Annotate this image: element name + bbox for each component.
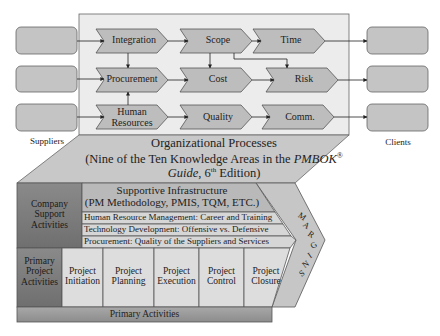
phase-closure-line1: Project	[244, 266, 288, 276]
company-support-line3: Activities	[17, 220, 82, 230]
client-box-2	[367, 66, 428, 92]
subtitle-prefix: (Nine of the Ten Knowledge Areas in the	[85, 152, 294, 166]
primary-project-label: Primary Project Activities	[17, 256, 62, 287]
company-support-label: Company Support Activities	[17, 199, 82, 230]
infrastructure-line2: (PM Methodology, PMIS, TQM, ETC.)	[82, 196, 262, 208]
knowledge-area-procurement: Procurement	[100, 73, 164, 84]
primary-activities-label: Primary Activities	[17, 309, 272, 319]
knowledge-area-integration: Integration	[104, 34, 164, 45]
phase-closure-label: Project Closure	[244, 266, 288, 287]
hr-line1: Human	[100, 106, 164, 117]
subtitle-mid: , 6	[198, 166, 211, 180]
clients-label: Clients	[367, 138, 429, 148]
suppliers-label: Suppliers	[16, 137, 78, 147]
knowledge-area-quality: Quality	[188, 111, 248, 122]
primary-project-line3: Activities	[17, 277, 62, 287]
supplier-box-3	[16, 104, 77, 131]
phase-control-line1: Project	[199, 266, 244, 276]
support-row-procurement-label: Procurement: Quality of the Suppliers an…	[84, 237, 269, 247]
support-row-hr-label: Human Resource Management: Career and Tr…	[84, 213, 272, 223]
knowledge-area-scope: Scope	[188, 34, 248, 45]
supplier-box-2	[16, 66, 77, 92]
organizational-processes-title: Organizational Processes	[79, 137, 349, 151]
knowledge-area-cost: Cost	[188, 73, 248, 84]
knowledge-area-risk: Risk	[274, 73, 334, 84]
supportive-infrastructure-label: Supportive Infrastructure (PM Methodolog…	[82, 184, 262, 208]
supplier-boxes	[16, 27, 77, 131]
hr-line2: Resources	[100, 117, 164, 128]
knowledge-area-comm: Comm.	[270, 111, 330, 122]
support-row-tech-label: Technology Development: Offensive vs. De…	[84, 225, 268, 235]
knowledge-area-human-resources: Human Resources	[100, 106, 164, 128]
subtitle-pmbok: PMBOK	[294, 152, 337, 166]
supplier-box-1	[16, 27, 77, 54]
phase-control-line2: Control	[199, 276, 244, 286]
phase-initiation-label: Project Initiation	[62, 266, 103, 287]
phase-planning-label: Project Planning	[103, 266, 154, 287]
phase-planning-line1: Project	[103, 266, 154, 276]
phase-control-label: Project Control	[199, 266, 244, 287]
client-boxes	[367, 27, 428, 131]
phase-initiation-line2: Initiation	[62, 276, 103, 286]
primary-project-line1: Primary	[17, 256, 62, 266]
phase-execution-label: Project Execution	[154, 266, 199, 287]
phase-planning-line2: Planning	[103, 276, 154, 286]
client-box-3	[367, 104, 428, 131]
company-support-line1: Company	[17, 199, 82, 209]
phase-execution-line2: Execution	[154, 276, 199, 286]
client-box-1	[367, 27, 428, 54]
organizational-processes-subtitle-2: Guide, 6th Edition)	[79, 167, 349, 181]
phase-initiation-line1: Project	[62, 266, 103, 276]
phase-execution-line1: Project	[154, 266, 199, 276]
knowledge-area-time: Time	[261, 34, 321, 45]
company-support-line2: Support	[17, 209, 82, 219]
subtitle-guide: Guide	[168, 166, 199, 180]
subtitle-suffix: Edition)	[216, 166, 260, 180]
infrastructure-line1: Supportive Infrastructure	[82, 184, 262, 196]
phase-closure-line2: Closure	[244, 276, 288, 286]
primary-project-line2: Project	[17, 266, 62, 276]
subtitle-registered: ®	[337, 151, 343, 160]
organizational-processes-subtitle-1: (Nine of the Ten Knowledge Areas in the …	[40, 152, 388, 167]
